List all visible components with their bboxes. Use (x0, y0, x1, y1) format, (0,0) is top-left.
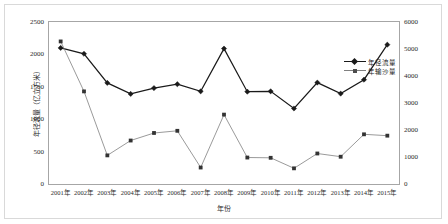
chart-legend: 年径流量 年输沙量 (344, 57, 396, 75)
plot-area (48, 21, 400, 185)
y-axis-right-tick-label: 3000 (404, 99, 430, 107)
x-axis-title: 年份 (0, 203, 448, 213)
y-axis-right-tick-label: 1000 (404, 153, 430, 161)
series-sediment (59, 40, 389, 171)
y-axis-right-tick-label: 0 (404, 180, 430, 188)
series-runoff (58, 42, 390, 111)
y-axis-left-tick-label: 500 (18, 148, 44, 156)
y-axis-left-tick-label: 1000 (18, 115, 44, 123)
y-axis-right-tick-label: 2000 (404, 126, 430, 134)
x-axis-tick-label: 2015年 (372, 189, 402, 197)
y-axis-right-tick-label: 5000 (404, 45, 430, 53)
y-axis-right-tick-label: 4000 (404, 72, 430, 80)
y-axis-left-title: 年径流量（亿立方米） (31, 52, 41, 152)
diamond-marker-icon (351, 58, 358, 65)
series-plot (49, 22, 399, 184)
square-marker-icon (353, 69, 357, 73)
y-axis-left-tick-label: 2000 (18, 50, 44, 58)
legend-key-sediment (344, 66, 366, 75)
legend-item-sediment[interactable]: 年输沙量 (344, 66, 396, 75)
chart-container: 年径流量（亿立方米） 年输沙量（万吨） 年份 05001000150020002… (0, 0, 448, 224)
y-axis-left-tick-label: 2500 (18, 18, 44, 26)
y-axis-left-tick-label: 1500 (18, 83, 44, 91)
legend-label-sediment: 年输沙量 (368, 66, 396, 76)
y-axis-left-tick-label: 0 (18, 180, 44, 188)
legend-key-runoff (344, 57, 366, 66)
y-axis-right-tick-label: 6000 (404, 18, 430, 26)
